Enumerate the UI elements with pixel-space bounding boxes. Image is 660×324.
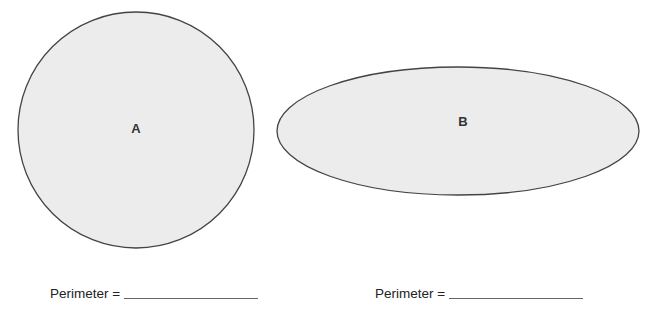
ellipse-b-label: B (458, 114, 467, 129)
perimeter-a-row: Perimeter = (50, 286, 258, 301)
perimeter-a-label: Perimeter = (50, 286, 120, 301)
ellipse-b (277, 67, 639, 195)
perimeter-b-label: Perimeter = (375, 286, 445, 301)
perimeter-b-blank[interactable] (449, 297, 583, 299)
perimeter-a-blank[interactable] (124, 297, 258, 299)
perimeter-b-row: Perimeter = (375, 286, 583, 301)
shapes-canvas (0, 0, 660, 324)
circle-a-label: A (131, 121, 140, 136)
